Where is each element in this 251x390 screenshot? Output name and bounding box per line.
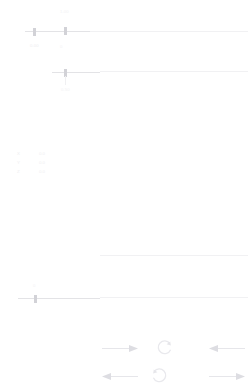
nudge-left-button[interactable] bbox=[102, 372, 140, 381]
canvas-root: 1.00 0.00 0 0.50 X 0.0 Y 0.0 Z 0.0 0 bbox=[0, 0, 251, 390]
coordinate-readout: X 0.0 Y 0.0 Z 0.0 bbox=[17, 151, 57, 174]
nudge-right-button-right[interactable] bbox=[209, 372, 245, 381]
readout-key: X bbox=[17, 151, 32, 156]
readout-value: 0.0 bbox=[39, 169, 57, 174]
readout-value: 0.0 bbox=[39, 160, 57, 165]
top-slider-track-right[interactable] bbox=[90, 31, 248, 32]
top-slider-max-label: 1.00 bbox=[60, 9, 69, 14]
nudge-pad bbox=[102, 333, 248, 389]
arrow-left-icon bbox=[102, 372, 138, 381]
nudge-right-button[interactable] bbox=[102, 344, 140, 353]
arrow-left-icon bbox=[209, 344, 245, 353]
top-slider-handle-secondary[interactable] bbox=[64, 27, 67, 35]
bottom-slider-track-right[interactable] bbox=[100, 297, 248, 298]
readout-key: Y bbox=[17, 160, 32, 165]
rotate-cw-button[interactable] bbox=[150, 366, 171, 385]
top-slider-left-label: 0 bbox=[60, 44, 62, 49]
bottom-slider-track-left[interactable] bbox=[18, 298, 100, 299]
second-slider-tick bbox=[65, 76, 66, 85]
nudge-left-button-right[interactable] bbox=[209, 344, 245, 353]
second-slider-track-right[interactable] bbox=[100, 71, 248, 72]
readout-value: 0.0 bbox=[39, 151, 57, 156]
arrow-right-icon bbox=[209, 372, 245, 381]
bottom-slider-handle[interactable] bbox=[34, 295, 37, 303]
top-slider-handle[interactable] bbox=[33, 28, 36, 36]
rotate-ccw-icon bbox=[155, 338, 174, 357]
top-slider-value-label: 0.00 bbox=[30, 43, 39, 48]
rotate-ccw-button[interactable] bbox=[155, 338, 176, 357]
readout-key: Z bbox=[17, 169, 32, 174]
second-slider-value-label: 0.50 bbox=[61, 87, 70, 92]
rotate-cw-icon bbox=[150, 366, 169, 385]
third-slider-track[interactable] bbox=[100, 255, 248, 256]
second-slider-track-left[interactable] bbox=[52, 72, 100, 73]
bottom-slider-value-label: 0 bbox=[33, 283, 35, 288]
arrow-right-icon bbox=[102, 344, 138, 353]
